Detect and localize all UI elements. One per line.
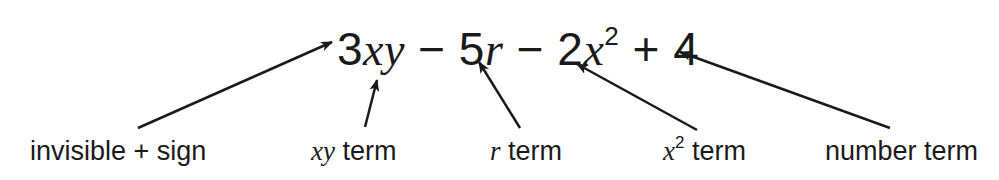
label-var: r: [490, 136, 501, 166]
arrow-r-term: [479, 62, 520, 128]
label-text: term: [335, 136, 397, 166]
label-number-term: number term: [825, 136, 978, 167]
arrow-number-term: [680, 52, 890, 128]
label-text: term: [684, 136, 746, 166]
arrow-xy-term: [365, 80, 377, 127]
label-var: x: [663, 136, 675, 166]
label-invisible-plus-sign: invisible + sign: [30, 136, 206, 167]
arrow-x2-term: [577, 64, 697, 130]
label-text: invisible + sign: [30, 136, 206, 166]
label-xy-term: xy term: [311, 136, 396, 167]
label-var: xy: [311, 136, 335, 166]
label-x2-term: x2 term: [663, 136, 746, 167]
label-text: term: [501, 136, 563, 166]
label-text: number term: [825, 136, 978, 166]
label-r-term: r term: [490, 136, 562, 167]
label-exponent: 2: [675, 133, 684, 152]
arrow-invisible-plus: [138, 42, 332, 128]
